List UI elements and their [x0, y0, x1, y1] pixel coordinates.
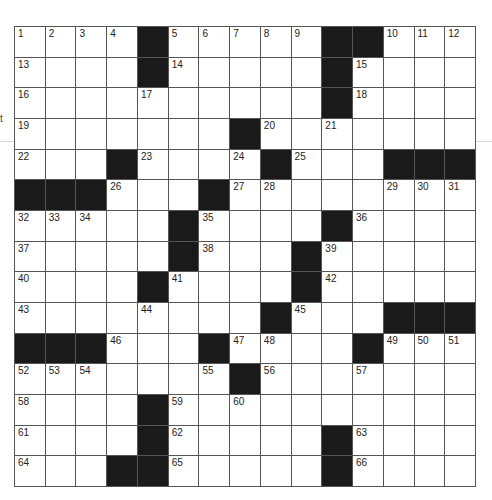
- grid-cell[interactable]: [415, 119, 446, 150]
- grid-cell[interactable]: [322, 303, 353, 334]
- grid-cell[interactable]: [199, 303, 230, 334]
- grid-cell[interactable]: [445, 58, 476, 89]
- grid-cell[interactable]: 2: [46, 27, 77, 58]
- grid-cell[interactable]: 37: [15, 242, 46, 273]
- grid-cell[interactable]: [76, 456, 107, 487]
- grid-cell[interactable]: 47: [230, 334, 261, 365]
- grid-cell[interactable]: [199, 119, 230, 150]
- grid-cell[interactable]: 25: [292, 150, 323, 181]
- grid-cell[interactable]: [445, 364, 476, 395]
- grid-cell[interactable]: 16: [15, 88, 46, 119]
- grid-cell[interactable]: [415, 88, 446, 119]
- grid-cell[interactable]: [46, 58, 77, 89]
- grid-cell[interactable]: 19: [15, 119, 46, 150]
- grid-cell[interactable]: [384, 364, 415, 395]
- grid-cell[interactable]: 30: [415, 180, 446, 211]
- grid-cell[interactable]: [445, 211, 476, 242]
- grid-cell[interactable]: [292, 119, 323, 150]
- grid-cell[interactable]: [76, 303, 107, 334]
- grid-cell[interactable]: [46, 456, 77, 487]
- grid-cell[interactable]: [76, 119, 107, 150]
- grid-cell[interactable]: 65: [169, 456, 200, 487]
- grid-cell[interactable]: [415, 395, 446, 426]
- grid-cell[interactable]: 5: [169, 27, 200, 58]
- grid-cell[interactable]: [199, 150, 230, 181]
- grid-cell[interactable]: [261, 88, 292, 119]
- grid-cell[interactable]: [261, 456, 292, 487]
- grid-cell[interactable]: [107, 426, 138, 457]
- grid-cell[interactable]: [230, 426, 261, 457]
- grid-cell[interactable]: 44: [138, 303, 169, 334]
- grid-cell[interactable]: [322, 334, 353, 365]
- grid-cell[interactable]: [230, 303, 261, 334]
- grid-cell[interactable]: [169, 334, 200, 365]
- grid-cell[interactable]: [292, 395, 323, 426]
- grid-cell[interactable]: [353, 395, 384, 426]
- grid-cell[interactable]: [107, 88, 138, 119]
- grid-cell[interactable]: [199, 272, 230, 303]
- grid-cell[interactable]: 43: [15, 303, 46, 334]
- grid-cell[interactable]: [138, 242, 169, 273]
- grid-cell[interactable]: 58: [15, 395, 46, 426]
- grid-cell[interactable]: 27: [230, 180, 261, 211]
- grid-cell[interactable]: 36: [353, 211, 384, 242]
- grid-cell[interactable]: 22: [15, 150, 46, 181]
- grid-cell[interactable]: [384, 211, 415, 242]
- grid-cell[interactable]: [107, 303, 138, 334]
- grid-cell[interactable]: [261, 242, 292, 273]
- grid-cell[interactable]: [230, 272, 261, 303]
- grid-cell[interactable]: [46, 395, 77, 426]
- grid-cell[interactable]: 1: [15, 27, 46, 58]
- grid-cell[interactable]: 12: [445, 27, 476, 58]
- grid-cell[interactable]: [445, 88, 476, 119]
- grid-cell[interactable]: [169, 119, 200, 150]
- grid-cell[interactable]: 13: [15, 58, 46, 89]
- grid-cell[interactable]: [46, 426, 77, 457]
- grid-cell[interactable]: [292, 426, 323, 457]
- grid-cell[interactable]: [384, 88, 415, 119]
- grid-cell[interactable]: [415, 242, 446, 273]
- grid-cell[interactable]: [445, 119, 476, 150]
- grid-cell[interactable]: 54: [76, 364, 107, 395]
- grid-cell[interactable]: [353, 150, 384, 181]
- grid-cell[interactable]: 26: [107, 180, 138, 211]
- grid-cell[interactable]: [415, 211, 446, 242]
- grid-cell[interactable]: [107, 364, 138, 395]
- grid-cell[interactable]: 39: [322, 242, 353, 273]
- grid-cell[interactable]: 51: [445, 334, 476, 365]
- grid-cell[interactable]: [230, 456, 261, 487]
- grid-cell[interactable]: [76, 426, 107, 457]
- grid-cell[interactable]: 57: [353, 364, 384, 395]
- grid-cell[interactable]: [445, 242, 476, 273]
- grid-cell[interactable]: [384, 58, 415, 89]
- grid-cell[interactable]: [46, 119, 77, 150]
- grid-cell[interactable]: 11: [415, 27, 446, 58]
- grid-cell[interactable]: [261, 395, 292, 426]
- grid-cell[interactable]: [353, 303, 384, 334]
- grid-cell[interactable]: 15: [353, 58, 384, 89]
- grid-cell[interactable]: 61: [15, 426, 46, 457]
- grid-cell[interactable]: [138, 364, 169, 395]
- grid-cell[interactable]: [76, 395, 107, 426]
- grid-cell[interactable]: 33: [46, 211, 77, 242]
- grid-cell[interactable]: 59: [169, 395, 200, 426]
- grid-cell[interactable]: [322, 150, 353, 181]
- grid-cell[interactable]: [322, 180, 353, 211]
- grid-cell[interactable]: [76, 272, 107, 303]
- grid-cell[interactable]: [415, 58, 446, 89]
- grid-cell[interactable]: 45: [292, 303, 323, 334]
- grid-cell[interactable]: [322, 395, 353, 426]
- grid-cell[interactable]: [138, 180, 169, 211]
- grid-cell[interactable]: [46, 272, 77, 303]
- grid-cell[interactable]: [292, 88, 323, 119]
- grid-cell[interactable]: [107, 211, 138, 242]
- grid-cell[interactable]: [107, 272, 138, 303]
- grid-cell[interactable]: [292, 334, 323, 365]
- grid-cell[interactable]: 40: [15, 272, 46, 303]
- grid-cell[interactable]: [415, 426, 446, 457]
- grid-cell[interactable]: [169, 364, 200, 395]
- grid-cell[interactable]: [107, 242, 138, 273]
- grid-cell[interactable]: 18: [353, 88, 384, 119]
- grid-cell[interactable]: 32: [15, 211, 46, 242]
- grid-cell[interactable]: [138, 334, 169, 365]
